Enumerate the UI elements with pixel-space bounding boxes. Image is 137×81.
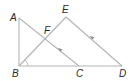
segment-BE (19, 17, 66, 66)
point-label-A: A (9, 12, 17, 23)
segment-ED (66, 17, 122, 66)
point-label-D: D (119, 68, 126, 79)
geometry-diagram: A B C D E F (0, 0, 137, 81)
point-label-E: E (62, 4, 69, 15)
point-label-C: C (76, 68, 84, 79)
angle-mark-B-icon (25, 60, 28, 66)
point-label-F: F (44, 25, 51, 36)
point-label-B: B (12, 68, 19, 79)
